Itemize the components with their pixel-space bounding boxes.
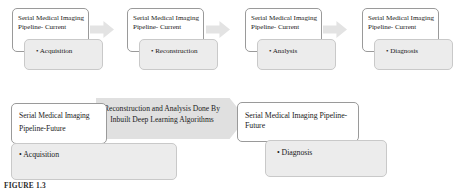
bottom-start-step-box: • Acquisition xyxy=(11,143,177,180)
top-stage-1-title: Serial Medical Imaging Pipeline- Current xyxy=(18,14,84,31)
deep-learning-arrow-label: Reconstruction and Analysis Done By Inbu… xyxy=(100,104,224,125)
bottom-start-title: Serial Medical Imaging Pipeline-Future xyxy=(19,110,102,135)
bottom-end-step-label: • Diagnosis xyxy=(277,149,382,158)
figure-canvas: Serial Medical Imaging Pipeline- Current… xyxy=(0,0,456,191)
top-stage-1-step-box: • Acquisition xyxy=(24,39,103,70)
bottom-end-title-box: Serial Medical Imaging Pipeline- Future xyxy=(237,102,359,142)
arrow-right-icon-2 xyxy=(206,21,230,38)
top-stage-4-step-label: • Diagnosis xyxy=(386,47,448,56)
arrow-right-icon-3 xyxy=(323,21,347,38)
top-stage-4-step-box: • Diagnosis xyxy=(374,39,453,70)
top-stage-3-step-box: • Analysis xyxy=(257,39,336,70)
top-stage-2-step-label: • Reconstruction xyxy=(151,47,213,56)
top-stage-3-title: Serial Medical Imaging Pipeline- Current xyxy=(251,14,317,31)
bottom-start-step-label: • Acquisition xyxy=(19,151,172,160)
top-stage-1-step-label: • Acquisition xyxy=(36,47,98,56)
top-stage-4-title: Serial Medical Imaging Pipeline- Current xyxy=(368,14,434,31)
figure-caption: FIGURE 1.3 xyxy=(4,181,46,190)
bottom-end-title: Serial Medical Imaging Pipeline- Future xyxy=(245,111,354,131)
deep-learning-arrow-icon: Reconstruction and Analysis Done By Inbu… xyxy=(96,98,246,139)
top-stage-2-title: Serial Medical Imaging Pipeline- Current xyxy=(133,14,199,31)
top-stage-3-step-label: • Analysis xyxy=(269,47,331,56)
bottom-end-step-box: • Diagnosis xyxy=(265,140,387,177)
bottom-start-title-box: Serial Medical Imaging Pipeline-Future xyxy=(11,103,107,144)
arrow-right-icon-1 xyxy=(90,21,114,38)
top-stage-2-step-box: • Reconstruction xyxy=(139,39,218,70)
